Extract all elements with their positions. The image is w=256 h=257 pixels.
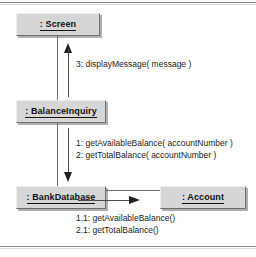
- message-label-accountcalls: 1.1: getAvailableBalance()2.1: getTotalB…: [76, 213, 175, 236]
- object-node-balanceinquiry[interactable]: : BalanceInquiry: [16, 100, 106, 123]
- message-label-getbalances: 1: getAvailableBalance( accountNumber )2…: [76, 138, 233, 161]
- message-arrow-up-icon: [64, 43, 73, 97]
- link-balanceinquiry-screen: [57, 36, 58, 100]
- message-arrow-right-icon: [78, 196, 140, 205]
- arrow-shaft: [78, 200, 130, 201]
- object-node-account-label: : Account: [182, 192, 224, 204]
- arrowhead-right-icon: [129, 196, 140, 204]
- arrow-shaft: [68, 128, 69, 174]
- top-divider-rule: [0, 2, 256, 3]
- object-node-screen[interactable]: : Screen: [16, 13, 100, 36]
- object-node-account[interactable]: : Account: [160, 186, 246, 209]
- link-balanceinquiry-bankdatabase: [57, 123, 58, 186]
- message-label-display: 3: displayMessage( message ): [76, 59, 191, 71]
- bottom-divider-rule-highlight: [0, 248, 256, 249]
- top-divider-rule-highlight: [0, 4, 256, 5]
- object-node-balanceinquiry-label: : BalanceInquiry: [25, 106, 97, 118]
- arrow-shaft: [68, 49, 69, 97]
- message-arrow-down-icon: [64, 128, 73, 182]
- link-bankdatabase-account: [106, 190, 160, 191]
- uml-communication-diagram: : Screen : BalanceInquiry : BankDatabase…: [0, 0, 256, 257]
- bottom-divider-rule: [0, 246, 256, 247]
- object-node-screen-label: : Screen: [40, 19, 76, 31]
- arrowhead-down-icon: [64, 172, 72, 182]
